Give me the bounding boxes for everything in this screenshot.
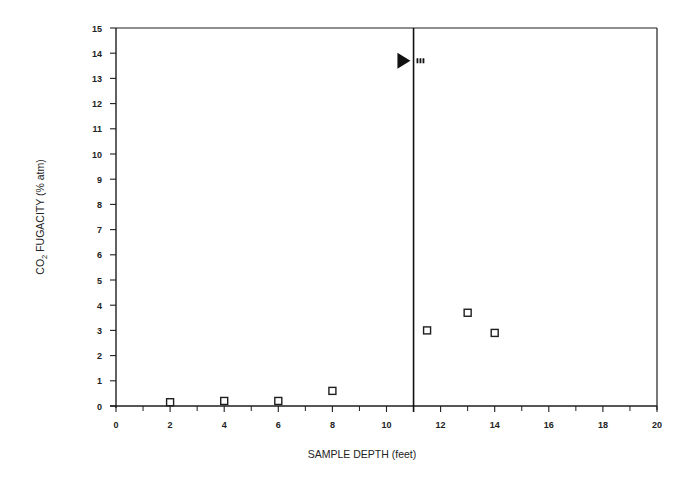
y-tick-label: 9 <box>97 175 102 185</box>
data-point-square <box>491 329 498 336</box>
y-tick-label: 2 <box>97 351 102 361</box>
y-tick-label: 1 <box>97 376 102 386</box>
y-tick-label: 11 <box>92 124 102 134</box>
data-point-square <box>167 399 174 406</box>
co2-fugacity-chart: 0123456789101112131415 02468101214161820… <box>0 0 697 479</box>
y-tick-label: 10 <box>92 150 102 160</box>
x-axis: 02468101214161820 <box>113 406 662 430</box>
data-point-square <box>275 397 282 404</box>
data-points <box>167 309 499 405</box>
x-tick-label: 8 <box>330 420 335 430</box>
y-tick-label: 5 <box>97 276 102 286</box>
dash-mark <box>423 58 425 63</box>
y-tick-label: 12 <box>92 99 102 109</box>
x-tick-label: 12 <box>436 420 446 430</box>
annotations <box>397 28 424 412</box>
y-tick-label: 15 <box>92 24 102 34</box>
x-axis-title: SAMPLE DEPTH (feet) <box>308 448 417 460</box>
y-axis-title: CO2 FUGACITY (% atm) <box>34 159 49 274</box>
dash-mark <box>417 58 419 63</box>
x-tick-label: 14 <box>490 420 500 430</box>
x-tick-label: 10 <box>381 420 391 430</box>
y-tick-label: 13 <box>92 74 102 84</box>
y-tick-label: 7 <box>97 225 102 235</box>
y-tick-label: 6 <box>97 250 102 260</box>
x-tick-label: 6 <box>276 420 281 430</box>
y-axis: 0123456789101112131415 <box>92 24 116 412</box>
x-tick-label: 4 <box>222 420 227 430</box>
data-point-square <box>329 387 336 394</box>
dash-mark <box>420 58 422 63</box>
y-tick-label: 3 <box>97 326 102 336</box>
x-tick-label: 20 <box>652 420 662 430</box>
data-point-square <box>464 309 471 316</box>
y-tick-label: 14 <box>92 49 102 59</box>
plot-frame <box>110 28 657 410</box>
y-tick-label: 0 <box>97 402 102 412</box>
water-table-triangle-icon <box>397 53 410 69</box>
x-tick-label: 18 <box>598 420 608 430</box>
y-tick-label: 8 <box>97 200 102 210</box>
data-point-square <box>221 397 228 404</box>
x-tick-label: 16 <box>544 420 554 430</box>
y-tick-label: 4 <box>97 301 102 311</box>
x-tick-label: 0 <box>113 420 118 430</box>
data-point-square <box>424 327 431 334</box>
x-tick-label: 2 <box>168 420 173 430</box>
